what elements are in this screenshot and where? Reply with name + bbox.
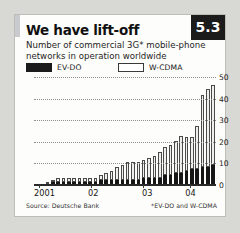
bar-segment-wcdma <box>46 182 50 184</box>
bar-column <box>67 178 71 184</box>
bar-segment-evdo <box>190 169 194 184</box>
legend-swatch-evdo-icon <box>26 63 52 72</box>
bar-segment-evdo <box>110 180 114 184</box>
bar-segment-evdo <box>131 180 135 184</box>
bar-segment-evdo <box>158 178 162 184</box>
bar-segment-evdo <box>115 180 119 184</box>
bar-column <box>94 178 98 184</box>
bar-segment-evdo <box>174 173 178 184</box>
bar-segment-wcdma <box>174 141 178 173</box>
bar-column <box>72 178 76 184</box>
bar-column <box>56 178 60 184</box>
bar-segment-evdo <box>211 165 215 184</box>
accent-bar <box>15 15 20 37</box>
bar-segment-evdo <box>195 169 199 184</box>
chart-subtitle: Number of commercial 3G* mobile-phone ne… <box>26 40 206 62</box>
bar-segment-evdo <box>67 182 71 184</box>
bar-column <box>158 152 162 184</box>
bar-column <box>137 162 141 184</box>
grid-line-30 <box>34 120 216 121</box>
chart-number-badge: 5.3 <box>191 15 225 40</box>
bar-column <box>131 162 135 184</box>
chart-plot-area: 01020304050 <box>26 77 216 185</box>
y-axis-tick-10: 10 <box>219 159 235 168</box>
bar-segment-wcdma <box>201 95 205 166</box>
bar-column <box>195 126 199 184</box>
bar-segment-wcdma <box>158 152 162 178</box>
bar-segment-evdo <box>99 180 103 184</box>
bar-segment-evdo <box>83 182 87 184</box>
bar-segment-wcdma <box>115 167 119 180</box>
bar-segment-wcdma <box>131 162 135 179</box>
bar-column <box>83 178 87 184</box>
bar-segment-evdo <box>78 182 82 184</box>
bar-column <box>201 95 205 184</box>
bar-segment-evdo <box>94 182 98 184</box>
bar-column <box>185 137 189 185</box>
x-axis-label-04: 04 <box>185 188 195 198</box>
chart-legend: EV-DO W-CDMA <box>26 62 216 74</box>
grid-line-50 <box>34 77 216 78</box>
bar-column <box>163 147 167 184</box>
footnote-note: *EV-DO and W-CDMA <box>151 202 217 209</box>
grid-line-10 <box>34 163 216 164</box>
bar-segment-evdo <box>88 182 92 184</box>
bar-segment-evdo <box>62 182 66 184</box>
bar-segment-evdo <box>179 173 183 184</box>
y-axis-tick-0: 0 <box>219 181 235 190</box>
bar-column <box>99 175 103 184</box>
bar-segment-wcdma <box>169 145 173 175</box>
grid-line-40 <box>34 99 216 100</box>
bar-segment-evdo <box>153 178 157 184</box>
x-axis-label-03: 03 <box>142 188 152 198</box>
bar-column <box>88 178 92 184</box>
bar-series-container <box>35 77 215 184</box>
bar-segment-evdo <box>147 178 151 184</box>
y-axis-tick-30: 30 <box>219 116 235 125</box>
bar-segment-evdo <box>201 167 205 184</box>
legend-item-evdo: EV-DO <box>26 62 82 73</box>
legend-item-wcdma: W-CDMA <box>118 62 182 73</box>
y-axis-tick-40: 40 <box>219 94 235 103</box>
bar-segment-evdo <box>121 180 125 184</box>
bar-segment-wcdma <box>121 165 125 180</box>
legend-label-evdo: EV-DO <box>57 63 82 72</box>
bar-segment-evdo <box>137 180 141 184</box>
bar-column <box>179 136 183 184</box>
bar-segment-evdo <box>104 180 108 184</box>
bar-column <box>62 178 66 184</box>
bar-segment-wcdma <box>110 171 114 180</box>
bar-segment-evdo <box>72 182 76 184</box>
x-axis-label-2001: 2001 <box>34 188 55 198</box>
bar-segment-evdo <box>169 175 173 184</box>
bar-segment-wcdma <box>163 147 167 175</box>
bar-column <box>46 182 50 184</box>
bar-segment-evdo <box>56 182 60 184</box>
bar-column <box>190 137 194 185</box>
bar-column <box>110 171 114 184</box>
bar-column <box>147 158 151 184</box>
bar-column <box>126 162 130 184</box>
bar-segment-wcdma <box>147 158 151 177</box>
bar-segment-wcdma <box>211 85 215 165</box>
bar-column <box>153 156 157 184</box>
bar-column <box>169 145 173 184</box>
x-axis-label-02: 02 <box>88 188 98 198</box>
bar-column <box>51 180 55 184</box>
bar-segment-wcdma <box>153 156 157 178</box>
bar-column <box>104 173 108 184</box>
page-title: We have lift-off <box>26 22 139 38</box>
screenshot-root: 5.3 We have lift-off Number of commercia… <box>0 0 240 233</box>
bar-segment-wcdma <box>126 162 130 179</box>
bar-segment-wcdma <box>137 162 141 179</box>
bar-segment-evdo <box>185 171 189 184</box>
grid-line-20 <box>34 142 216 143</box>
bar-segment-evdo <box>126 180 130 184</box>
source-note: Source: Deutsche Bank <box>26 202 99 209</box>
legend-label-wcdma: W-CDMA <box>149 63 182 72</box>
bar-segment-evdo <box>142 178 146 184</box>
y-axis-tick-20: 20 <box>219 137 235 146</box>
bar-segment-evdo <box>51 182 55 184</box>
bar-column <box>115 167 119 184</box>
bar-column <box>121 165 125 184</box>
